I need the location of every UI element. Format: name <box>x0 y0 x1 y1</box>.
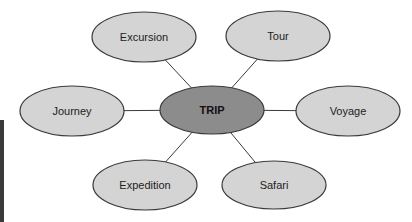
node-label: Journey <box>52 105 92 117</box>
node-voyage: Voyage <box>296 86 400 136</box>
center-node: TRIP <box>160 86 264 134</box>
connector-line-tour <box>232 59 258 88</box>
node-label: Excursion <box>120 31 168 43</box>
node-expedition: Expedition <box>93 160 197 210</box>
node-journey: Journey <box>20 86 124 136</box>
node-label: Expedition <box>119 179 170 191</box>
center-label: TRIP <box>199 104 224 116</box>
node-label: Voyage <box>330 105 367 117</box>
node-label: Tour <box>267 30 289 42</box>
trip-concept-map: ExcursionTourJourneyVoyageExpeditionSafa… <box>0 0 412 222</box>
node-tour: Tour <box>226 11 330 61</box>
connector-line-expedition <box>166 132 193 162</box>
node-safari: Safari <box>222 161 326 209</box>
node-label: Safari <box>260 179 289 191</box>
connector-line-excursion <box>165 60 191 88</box>
connector-line-safari <box>231 132 256 162</box>
node-excursion: Excursion <box>92 12 196 62</box>
